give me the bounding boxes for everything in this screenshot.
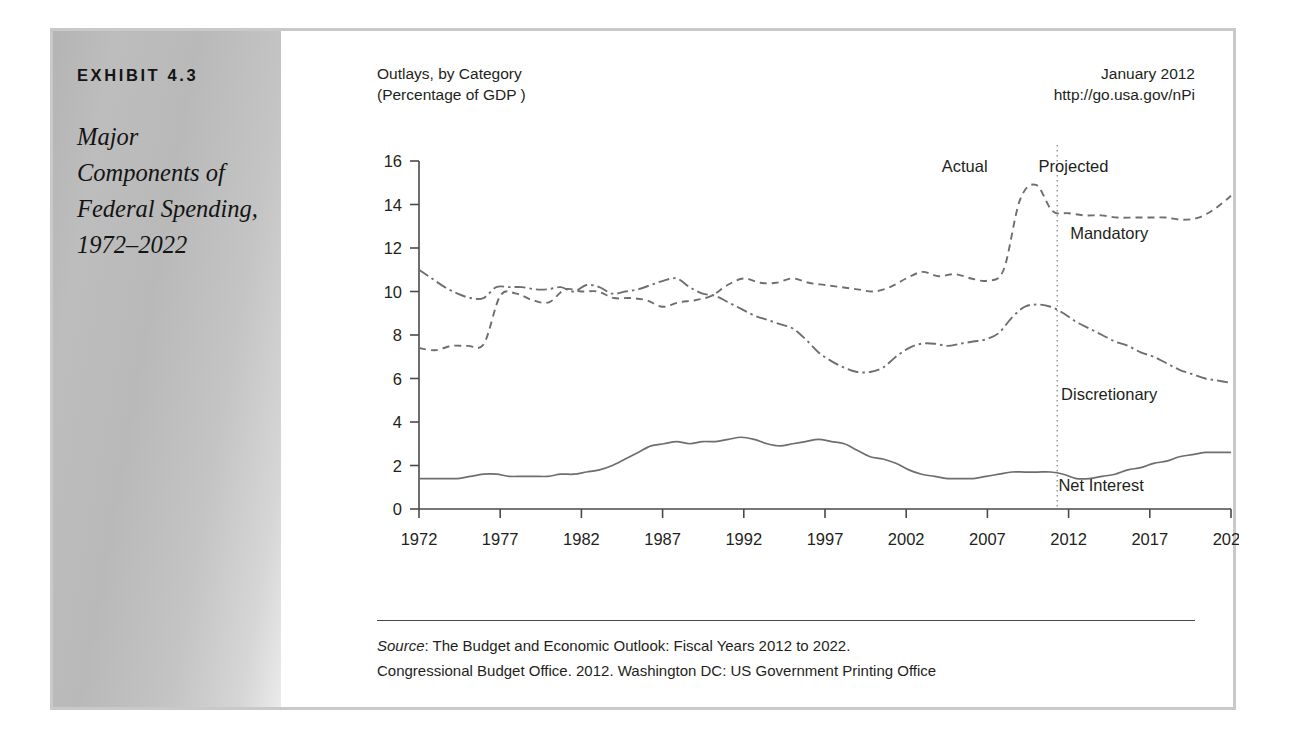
x-tick-label: 2002 xyxy=(888,530,925,548)
x-axis-tick-labels: 1972197719821987199219972002200720122017… xyxy=(401,509,1239,548)
series-label-discretionary: Discretionary xyxy=(1061,385,1158,403)
series-label-net-interest: Net Interest xyxy=(1058,476,1144,494)
source-rest: : The Budget and Economic Outlook: Fisca… xyxy=(425,637,851,654)
y-tick-label: 16 xyxy=(384,152,402,170)
exhibit-frame: EXHIBIT 4.3 Major Components of Federal … xyxy=(50,28,1236,710)
series-line-net-interest xyxy=(419,437,1231,479)
x-tick-label: 1997 xyxy=(807,530,844,548)
chart-panel: Outlays, by Category (Percentage of GDP … xyxy=(281,31,1233,707)
y-axis-tick-labels: 0246810121416 xyxy=(384,152,419,518)
x-tick-label: 1987 xyxy=(644,530,681,548)
chart-plot-area: 0246810121416 19721977198219871992199720… xyxy=(281,139,1233,559)
x-tick-label: 2012 xyxy=(1050,530,1087,548)
exhibit-number-label: EXHIBIT 4.3 xyxy=(77,66,198,85)
source-word: Source xyxy=(377,637,425,654)
y-tick-label: 8 xyxy=(393,326,402,344)
chart-axes xyxy=(419,161,1231,509)
annotation-actual: Actual xyxy=(942,157,988,175)
y-tick-label: 0 xyxy=(393,500,402,518)
footer-divider-rule xyxy=(377,620,1195,621)
x-tick-label: 1992 xyxy=(725,530,762,548)
annotation-projected: Projected xyxy=(1039,157,1109,175)
source-line-2: Congressional Budget Office. 2012. Washi… xyxy=(377,658,1203,683)
y-tick-label: 6 xyxy=(393,370,402,388)
series-label-mandatory: Mandatory xyxy=(1070,224,1149,242)
x-tick-label: 2017 xyxy=(1131,530,1168,548)
series-line-discretionary xyxy=(419,270,1231,383)
x-tick-label: 2022 xyxy=(1213,530,1239,548)
y-tick-label: 14 xyxy=(384,196,402,214)
series-labels-group: MandatoryDiscretionaryNet Interest xyxy=(1058,224,1158,493)
line-chart-svg: 0246810121416 19721977198219871992199720… xyxy=(281,139,1239,559)
exhibit-sidebar: EXHIBIT 4.3 Major Components of Federal … xyxy=(53,31,281,707)
y-tick-label: 10 xyxy=(384,283,402,301)
y-tick-label: 2 xyxy=(393,457,402,475)
chart-header-right: January 2012 http://go.usa.gov/nPi xyxy=(1054,63,1195,105)
source-line-1: Source: The Budget and Economic Outlook:… xyxy=(377,633,1203,658)
x-tick-label: 1972 xyxy=(401,530,438,548)
annotations-group: ActualProjected xyxy=(942,157,1109,175)
chart-header-left: Outlays, by Category (Percentage of GDP … xyxy=(377,63,526,105)
series-line-mandatory xyxy=(419,184,1231,350)
y-tick-label: 4 xyxy=(393,413,402,431)
x-tick-label: 2007 xyxy=(969,530,1006,548)
source-footer: Source: The Budget and Economic Outlook:… xyxy=(377,633,1203,683)
x-tick-label: 1977 xyxy=(482,530,519,548)
exhibit-title: Major Components of Federal Spending, 19… xyxy=(77,119,263,263)
y-tick-label: 12 xyxy=(384,239,402,257)
x-tick-label: 1982 xyxy=(563,530,600,548)
